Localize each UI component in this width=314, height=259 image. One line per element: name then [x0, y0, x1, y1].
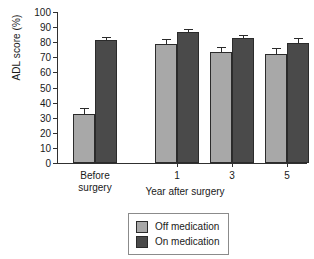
y-tick-mark — [53, 88, 57, 89]
error-bar-cap — [102, 37, 111, 38]
y-tick-label: 80 — [40, 37, 51, 48]
legend-swatch — [136, 236, 148, 248]
y-axis-title: ADL score (%) — [11, 0, 22, 108]
error-bar-stem — [166, 40, 167, 44]
bar — [265, 54, 287, 163]
y-tick-mark — [53, 12, 57, 13]
y-tick-mark — [53, 72, 57, 73]
x-category-label: 1 — [174, 170, 180, 182]
x-category-line: 1 — [174, 170, 180, 182]
x-category-line: 5 — [284, 170, 290, 182]
error-bar-cap — [162, 39, 171, 40]
y-tick-label: 20 — [40, 127, 51, 138]
y-tick-mark — [53, 42, 57, 43]
error-bar-cap — [272, 48, 281, 49]
y-tick-mark — [53, 133, 57, 134]
legend-swatch — [136, 221, 148, 233]
error-bar-cap — [239, 35, 248, 36]
y-tick-label: 30 — [40, 112, 51, 123]
y-tick-label: 90 — [40, 22, 51, 33]
bar — [210, 52, 232, 163]
y-tick-label: 0 — [45, 158, 51, 169]
y-tick-label: 50 — [40, 82, 51, 93]
error-bar-stem — [276, 49, 277, 54]
legend-label: On medication — [155, 236, 219, 247]
y-tick-label: 40 — [40, 97, 51, 108]
x-category-line: 3 — [229, 170, 235, 182]
error-bar-cap — [217, 47, 226, 48]
x-axis-line — [57, 163, 307, 164]
bar — [95, 40, 117, 163]
bar — [73, 114, 95, 163]
legend-item: Off medication — [136, 219, 219, 234]
x-tick-mark — [177, 163, 178, 167]
y-tick-mark — [53, 118, 57, 119]
y-tick-mark — [53, 148, 57, 149]
x-category-label: 5 — [284, 170, 290, 182]
x-tick-mark — [287, 163, 288, 167]
error-bar-stem — [243, 36, 244, 38]
legend-item: On medication — [136, 234, 219, 249]
bar — [177, 32, 199, 163]
error-bar-cap — [80, 108, 89, 109]
x-category-line: Before — [78, 170, 111, 182]
y-axis-line — [57, 12, 58, 163]
legend-label: Off medication — [155, 221, 219, 232]
bar — [232, 38, 254, 163]
y-tick-label: 60 — [40, 67, 51, 78]
chart-legend: Off medicationOn medication — [128, 213, 229, 255]
x-tick-mark — [232, 163, 233, 167]
x-axis-title-wrap: Year after surgery — [0, 186, 314, 197]
error-bar-cap — [294, 38, 303, 39]
y-tick-mark — [53, 27, 57, 28]
y-tick-mark — [53, 57, 57, 58]
x-category-label: 3 — [229, 170, 235, 182]
bar-chart-figure: ADL score (%) 1009080706050403020100 Bef… — [0, 0, 314, 259]
plot-area: 1009080706050403020100 Beforesurgery135 — [57, 12, 307, 163]
y-tick-label: 100 — [34, 7, 51, 18]
error-bar-stem — [84, 109, 85, 114]
error-bar-cap — [184, 29, 193, 30]
error-bar-stem — [298, 39, 299, 43]
y-tick-mark — [53, 163, 57, 164]
y-tick-label: 10 — [40, 142, 51, 153]
error-bar-stem — [221, 48, 222, 53]
error-bar-stem — [188, 30, 189, 32]
x-axis-title: Year after surgery — [145, 186, 224, 197]
bar — [287, 43, 309, 163]
y-tick-label: 70 — [40, 52, 51, 63]
y-tick-mark — [53, 103, 57, 104]
bar — [155, 44, 177, 163]
error-bar-stem — [106, 38, 107, 40]
